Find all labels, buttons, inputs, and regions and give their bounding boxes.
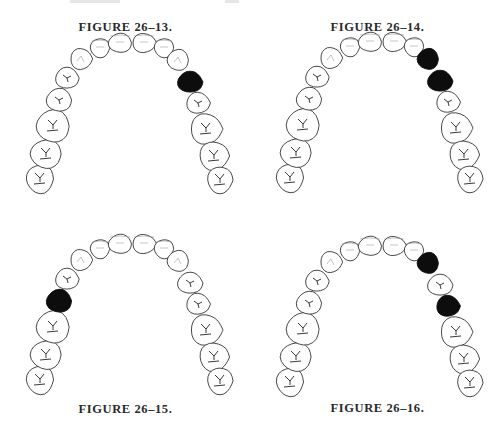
tooth-left-lateral-incisor	[340, 38, 359, 57]
tooth-right-second-premolar	[437, 91, 461, 112]
tooth-right-second-molar	[200, 343, 230, 372]
tooth-left-second-molar	[280, 139, 311, 168]
figure-26-16: FIGURE 26–16.	[252, 215, 503, 429]
tooth-left-third-molar	[26, 366, 53, 395]
tooth-right-first-premolar	[178, 71, 203, 92]
figure-caption: FIGURE 26–15.	[0, 402, 251, 417]
tooth-right-central-incisor	[133, 33, 157, 52]
tooth-left-central-incisor	[108, 33, 131, 52]
dental-arch	[2, 0, 253, 210]
tooth-left-second-premolar	[296, 291, 321, 314]
dental-arch	[252, 0, 503, 209]
figure-caption: FIGURE 26–16.	[252, 401, 503, 416]
tooth-right-first-molar	[441, 317, 473, 348]
tooth-right-central-incisor	[383, 32, 407, 51]
tooth-right-second-molar	[450, 345, 480, 374]
tooth-left-central-incisor	[358, 236, 381, 255]
tooth-right-first-molar	[191, 114, 223, 145]
tooth-left-central-incisor	[108, 234, 131, 253]
tooth-right-central-incisor	[133, 234, 157, 253]
tooth-right-second-premolar	[187, 92, 211, 113]
tooth-left-first-premolar	[56, 268, 80, 289]
figure-26-13: FIGURE 26–13.	[0, 0, 251, 214]
tooth-left-third-molar	[26, 165, 53, 194]
dental-arch	[2, 197, 253, 411]
tooth-right-third-molar	[458, 370, 483, 397]
tooth-left-canine	[71, 48, 93, 69]
tooth-right-central-incisor	[383, 236, 407, 255]
tooth-right-second-premolar	[437, 295, 461, 316]
tooth-left-first-molar	[286, 312, 319, 345]
tooth-left-third-molar	[276, 164, 303, 193]
tooth-right-second-molar	[200, 142, 230, 171]
tooth-right-third-molar	[208, 167, 233, 194]
tooth-left-first-premolar	[306, 270, 330, 291]
tooth-left-second-molar	[30, 140, 61, 169]
tooth-left-first-molar	[36, 109, 69, 142]
tooth-left-first-premolar	[306, 66, 330, 87]
tooth-right-third-molar	[208, 368, 233, 395]
tooth-left-central-incisor	[358, 32, 381, 51]
dental-arch	[252, 199, 503, 413]
figure-26-15: FIGURE 26–15.	[0, 215, 251, 429]
tooth-left-canine	[321, 47, 343, 68]
tooth-right-first-premolar	[428, 274, 453, 295]
tooth-left-first-molar	[36, 310, 69, 343]
tooth-right-third-molar	[458, 166, 483, 193]
tooth-left-canine	[71, 249, 93, 270]
figure-26-14: FIGURE 26–14.	[252, 0, 503, 214]
tooth-left-canine	[321, 251, 343, 272]
tooth-left-lateral-incisor	[90, 240, 109, 259]
tooth-left-first-premolar	[56, 67, 80, 88]
tooth-right-second-premolar	[187, 293, 211, 314]
tooth-right-first-premolar	[428, 70, 453, 91]
tooth-right-first-molar	[191, 315, 223, 346]
tooth-left-lateral-incisor	[340, 242, 359, 261]
tooth-left-second-premolar	[296, 87, 321, 110]
tooth-left-third-molar	[276, 368, 303, 397]
tooth-left-second-molar	[280, 343, 311, 372]
tooth-left-second-molar	[30, 341, 61, 370]
tooth-right-second-molar	[450, 141, 480, 170]
tooth-left-first-molar	[286, 108, 319, 141]
tooth-left-second-premolar	[46, 289, 71, 312]
tooth-right-first-premolar	[178, 272, 203, 293]
tooth-left-second-premolar	[46, 88, 71, 111]
tooth-left-lateral-incisor	[90, 39, 109, 58]
tooth-right-first-molar	[441, 113, 473, 144]
